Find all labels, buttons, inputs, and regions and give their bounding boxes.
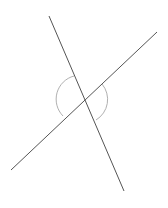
background <box>0 0 168 208</box>
angle-diagram <box>0 0 168 208</box>
